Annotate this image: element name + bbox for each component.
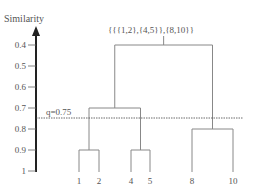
leaf-label: 1 (77, 176, 82, 186)
leaf-label: 10 (229, 176, 239, 186)
leaf-label: 5 (148, 176, 153, 186)
leaf-label: 2 (97, 176, 102, 186)
tick-label: 0.8 (15, 124, 27, 134)
tick-label: 0.7 (15, 103, 27, 113)
tick-label: 1 (22, 166, 27, 176)
tick-label: 0.4 (15, 40, 27, 50)
threshold-label: q=0.75 (46, 107, 72, 117)
axis-title: Similarity (4, 13, 44, 24)
leaf-label: 4 (129, 176, 134, 186)
dendrogram: 0.40.50.60.70.80.91 Similarity {{{1,2},{… (0, 0, 253, 193)
axis-ticks: 0.40.50.60.70.80.91 (15, 40, 36, 176)
tick-label: 0.5 (15, 61, 27, 71)
leaf-labels: 1245810 (77, 176, 238, 186)
root-cluster-label: {{{1,2},{4,5}},{8,10}} (108, 25, 194, 35)
tree (79, 36, 233, 172)
tick-label: 0.9 (15, 145, 27, 155)
axis-arrow-icon (32, 26, 40, 36)
leaf-label: 8 (190, 176, 195, 186)
tick-label: 0.6 (15, 82, 27, 92)
